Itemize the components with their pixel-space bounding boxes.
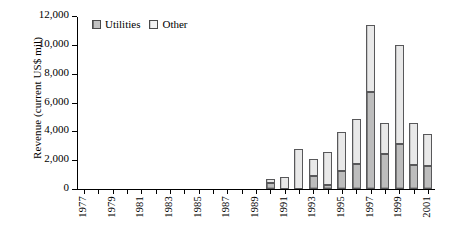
x-tick: [342, 190, 343, 194]
x-tick: [242, 190, 243, 194]
x-tick: [184, 190, 185, 194]
bar-segment-other: [309, 159, 318, 176]
x-tick: [98, 190, 99, 194]
y-tick: 2,000: [72, 160, 77, 161]
x-tick-label: 1977: [77, 196, 88, 218]
y-tick-label: 6,000: [44, 95, 69, 107]
y-tick: 4,000: [72, 131, 77, 132]
bar-segment-utilities: [366, 92, 375, 189]
bar-segment-other: [395, 45, 404, 144]
bar-1992: [294, 149, 303, 189]
x-tick: [328, 190, 329, 194]
x-tick: [213, 190, 214, 194]
bar-1990: [266, 179, 275, 189]
x-tick: [141, 190, 142, 194]
x-tick-label: 1987: [220, 196, 231, 218]
x-tick: [170, 190, 171, 194]
bar-segment-utilities: [309, 176, 318, 189]
bar-1991: [280, 177, 289, 189]
y-tick: 6,000: [72, 103, 77, 104]
x-tick: [227, 190, 228, 194]
y-tick-label: 12,000: [39, 8, 69, 20]
x-tick-label: 1983: [163, 196, 174, 218]
y-tick-label: 2,000: [44, 152, 69, 164]
x-tick: [84, 190, 85, 194]
bar-segment-utilities: [380, 154, 389, 189]
bar-segment-utilities: [352, 164, 361, 189]
x-tick: [270, 190, 271, 194]
plot-area: 02,0004,0006,0008,00010,00012,000 197719…: [77, 17, 435, 190]
bar-1997: [366, 25, 375, 189]
y-axis-title: Revenue (current US$ mil): [31, 3, 43, 193]
y-tick-label: 0: [64, 181, 70, 193]
y-tick: 10,000: [72, 45, 77, 46]
y-tick-label: 10,000: [39, 37, 69, 49]
bar-segment-other: [352, 119, 361, 164]
x-tick-label: 2001: [421, 196, 432, 218]
x-tick: [199, 190, 200, 194]
y-tick-label: 8,000: [44, 66, 69, 78]
x-tick-label: 1985: [192, 196, 203, 218]
bar-1996: [352, 119, 361, 189]
x-tick-label: 1981: [134, 196, 145, 218]
bar-1998: [380, 123, 389, 189]
y-tick: 8,000: [72, 74, 77, 75]
x-tick: [313, 190, 314, 194]
revenue-stacked-bar-chart: Revenue (current US$ mil) Utilities Othe…: [0, 0, 453, 233]
x-tick-label: 1989: [249, 196, 260, 218]
bar-segment-other: [266, 179, 275, 183]
bar-segment-other: [337, 132, 346, 171]
x-tick: [414, 190, 415, 194]
bar-2000: [409, 123, 418, 189]
bar-segment-utilities: [423, 166, 432, 189]
bar-2001: [423, 134, 432, 189]
bar-segment-utilities: [337, 171, 346, 189]
bar-segment-other: [294, 149, 303, 189]
x-tick: [356, 190, 357, 194]
bar-1995: [337, 132, 346, 189]
x-tick: [256, 190, 257, 194]
x-tick-label: 1979: [106, 196, 117, 218]
x-tick: [127, 190, 128, 194]
bar-1993: [309, 159, 318, 189]
bar-segment-other: [423, 134, 432, 166]
x-tick-label: 1995: [335, 196, 346, 218]
x-tick-label: 1991: [278, 196, 289, 218]
bar-segment-utilities: [395, 144, 404, 189]
y-axis-line: [77, 17, 78, 190]
bar-segment-other: [380, 123, 389, 154]
x-tick: [156, 190, 157, 194]
bar-segment-other: [280, 177, 289, 189]
x-tick: [385, 190, 386, 194]
bar-1994: [323, 152, 332, 189]
bar-segment-other: [366, 25, 375, 91]
bar-1999: [395, 45, 404, 189]
x-tick-label: 1997: [364, 196, 375, 218]
x-tick: [285, 190, 286, 194]
x-tick: [113, 190, 114, 194]
x-tick: [399, 190, 400, 194]
x-tick-label: 1999: [392, 196, 403, 218]
bar-segment-utilities: [266, 183, 275, 189]
y-tick-label: 4,000: [44, 123, 69, 135]
bar-segment-utilities: [323, 185, 332, 189]
y-tick: 12,000: [72, 16, 77, 17]
bar-segment-other: [323, 152, 332, 185]
x-tick: [371, 190, 372, 194]
x-tick: [299, 190, 300, 194]
x-tick: [428, 190, 429, 194]
bar-segment-other: [409, 123, 418, 164]
bar-segment-utilities: [409, 165, 418, 190]
x-tick-label: 1993: [306, 196, 317, 218]
y-tick: 0: [72, 189, 77, 190]
